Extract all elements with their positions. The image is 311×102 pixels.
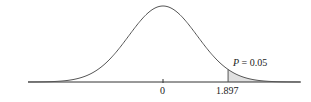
distribution-chart <box>0 0 311 102</box>
tick-label-critical: 1.897 <box>216 85 239 96</box>
p-value-annotation: P = 0.05 <box>233 57 267 68</box>
density-curve <box>28 6 300 82</box>
tick-label-zero: 0 <box>160 85 165 96</box>
